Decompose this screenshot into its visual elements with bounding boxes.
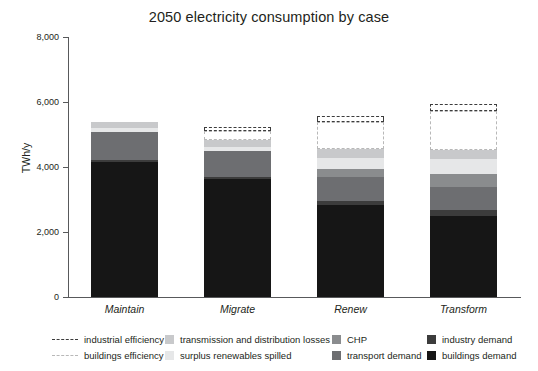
bar-segment [430, 174, 497, 187]
legend-label: buildings demand [442, 350, 516, 361]
legend-column: industry demandbuildings demand [427, 332, 516, 364]
legend-column: industrial efficiencybuildings efficienc… [52, 332, 164, 364]
y-tick-mark [63, 297, 68, 298]
chart-legend: industrial efficiencybuildings efficienc… [0, 332, 538, 366]
bar-segment [317, 201, 384, 205]
legend-label: buildings efficiency [84, 350, 164, 361]
y-tick-label: 6,000 [5, 97, 59, 107]
legend-item[interactable]: CHP [332, 332, 421, 346]
bar-segment [204, 147, 271, 151]
legend-item[interactable]: industry demand [427, 332, 516, 346]
legend-swatch-icon [165, 335, 174, 344]
legend-item[interactable]: surplus renewables spilled [165, 348, 330, 362]
legend-label: transport demand [347, 350, 421, 361]
chart-title: 2050 electricity consumption by case [0, 9, 538, 25]
x-axis-line [68, 297, 521, 298]
bar-segment [317, 177, 384, 201]
y-tick-mark [63, 102, 68, 103]
legend-swatch-icon [427, 351, 436, 360]
legend-label: transmission and distribution losses [180, 334, 330, 345]
x-axis-label: Migrate [178, 303, 298, 315]
bar-segment [430, 187, 497, 210]
bar-group[interactable] [91, 37, 158, 297]
bar-segment [91, 162, 158, 297]
bar-segment [317, 169, 384, 176]
legend-swatch-icon [332, 351, 341, 360]
bar-segment [430, 150, 497, 158]
legend-item[interactable]: buildings demand [427, 348, 516, 362]
legend-item[interactable]: industrial efficiency [52, 332, 164, 346]
bar-segment-ghost [204, 131, 271, 140]
bar-segment [317, 158, 384, 169]
bar-segment-ghost [204, 127, 271, 131]
bar-segment [91, 128, 158, 132]
bar-segment [204, 179, 271, 297]
legend-column: transmission and distribution lossessurp… [165, 332, 330, 364]
legend-swatch-icon [332, 335, 341, 344]
bar-segment [317, 205, 384, 297]
bar-group[interactable] [204, 37, 271, 297]
legend-label: CHP [347, 334, 367, 345]
x-axis-label: Renew [291, 303, 411, 315]
bar-segment [430, 210, 497, 216]
y-tick-label: 2,000 [5, 227, 59, 237]
legend-dashed-line-icon [52, 355, 78, 356]
x-axis-label: Transform [404, 303, 524, 315]
legend-label: industry demand [442, 334, 512, 345]
bar-segment-ghost [430, 111, 497, 150]
bar-segment [91, 160, 158, 162]
x-axis-label: Maintain [65, 303, 185, 315]
y-axis-tick-labels: 02,0004,0006,0008,000 [0, 0, 59, 371]
legend-item[interactable]: buildings efficiency [52, 348, 164, 362]
legend-label: industrial efficiency [84, 334, 164, 345]
bar-segment [204, 177, 271, 179]
bar-group[interactable] [430, 37, 497, 297]
bar-segment-ghost [317, 116, 384, 122]
bar-segment [91, 132, 158, 160]
bar-group[interactable] [317, 37, 384, 297]
y-tick-mark [63, 232, 68, 233]
legend-label: surplus renewables spilled [180, 350, 291, 361]
legend-swatch-icon [165, 351, 174, 360]
bar-segment-ghost [430, 104, 497, 111]
bar-segment [91, 122, 158, 129]
legend-item[interactable]: transmission and distribution losses [165, 332, 330, 346]
bar-segment [430, 159, 497, 175]
y-tick-label: 4,000 [5, 162, 59, 172]
bar-segment [204, 140, 271, 147]
legend-column: CHPtransport demand [332, 332, 421, 364]
y-tick-mark [63, 37, 68, 38]
y-tick-label: 8,000 [5, 32, 59, 42]
legend-item[interactable]: transport demand [332, 348, 421, 362]
bar-segment [430, 216, 497, 297]
legend-dashed-line-icon [52, 339, 78, 340]
y-tick-label: 0 [5, 292, 59, 302]
chart-figure: 2050 electricity consumption by case TWh… [0, 0, 538, 371]
bar-segment [317, 149, 384, 157]
y-tick-mark [63, 167, 68, 168]
bar-segment [204, 151, 271, 177]
legend-swatch-icon [427, 335, 436, 344]
bar-segment-ghost [317, 122, 384, 149]
